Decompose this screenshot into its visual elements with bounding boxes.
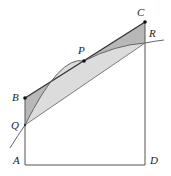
label-r: R [148,27,156,39]
label-c: C [137,6,145,18]
label-b: B [12,91,19,103]
point-p [82,59,86,63]
geometry-figure: C R P B Q A D [0,0,171,176]
point-c [143,20,147,24]
chord-qr [25,43,145,125]
label-p: P [77,44,85,56]
diagram: C R P B Q A D [0,0,171,176]
label-d: D [149,154,158,166]
label-q: Q [11,119,19,131]
point-b [23,96,27,100]
point-q [24,124,26,126]
label-a: A [12,154,20,166]
